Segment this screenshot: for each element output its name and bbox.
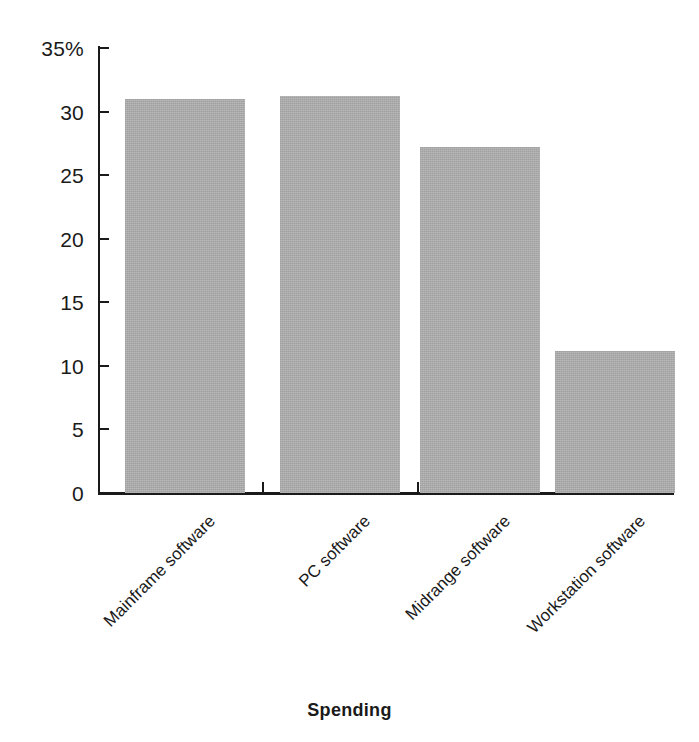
y-axis-tick-label: 0 xyxy=(72,483,84,504)
y-axis-tick-label: 15 xyxy=(60,292,84,313)
y-axis-tick-label: 20 xyxy=(60,229,84,250)
y-axis-tick xyxy=(98,47,109,49)
y-axis-tick xyxy=(98,492,109,494)
y-axis-tick xyxy=(98,238,109,240)
y-axis-tick-label: 25 xyxy=(60,165,84,186)
y-axis-tick xyxy=(98,301,109,303)
y-axis-tick xyxy=(98,428,109,430)
y-axis-tick xyxy=(98,174,109,176)
plot-area xyxy=(98,48,672,493)
y-axis-tick-label: 10 xyxy=(60,356,84,377)
x-axis-tick xyxy=(417,482,419,493)
bar-chart: 05101520253035% Mainframe softwarePC sof… xyxy=(0,0,699,742)
bar xyxy=(420,147,540,493)
x-axis-title: Spending xyxy=(0,700,699,721)
y-axis-tick-labels: 05101520253035% xyxy=(0,0,98,742)
bar xyxy=(555,351,675,493)
y-axis-tick-label: 35% xyxy=(41,38,84,59)
bar xyxy=(125,99,245,493)
y-axis-tick-label: 5 xyxy=(72,419,84,440)
x-axis-tick xyxy=(262,482,264,493)
y-axis-tick-label: 30 xyxy=(60,102,84,123)
y-axis-tick xyxy=(98,111,109,113)
bar xyxy=(280,96,400,493)
y-axis-tick xyxy=(98,365,109,367)
